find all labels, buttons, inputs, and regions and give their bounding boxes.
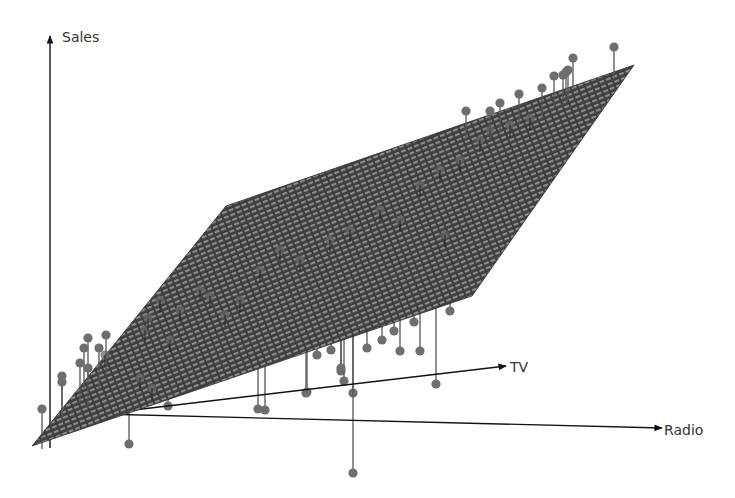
data-point-below-plane bbox=[260, 405, 269, 414]
data-point-below-plane bbox=[409, 317, 418, 326]
regression-plane-plot bbox=[0, 0, 735, 498]
data-point-above-plane bbox=[94, 343, 103, 352]
data-point-above-plane bbox=[83, 363, 92, 372]
data-point-above-plane bbox=[37, 404, 46, 413]
chart-canvas: Sales TV Radio bbox=[0, 0, 735, 498]
data-point-below-plane bbox=[336, 363, 345, 372]
data-point-above-plane bbox=[101, 330, 110, 339]
data-point-below-plane bbox=[124, 439, 133, 448]
data-point-above-plane bbox=[57, 377, 66, 386]
data-point-above-plane bbox=[514, 89, 523, 98]
data-point-above-plane bbox=[558, 70, 567, 79]
regression-plane bbox=[32, 65, 634, 446]
data-point-above-plane bbox=[75, 358, 84, 367]
data-point-below-plane bbox=[445, 306, 454, 315]
data-point-below-plane bbox=[431, 379, 440, 388]
data-point-below-plane bbox=[377, 335, 386, 344]
data-point-above-plane bbox=[568, 53, 577, 62]
data-point-below-plane bbox=[389, 326, 398, 335]
data-point-below-plane bbox=[312, 350, 321, 359]
sales-axis-label: Sales bbox=[62, 29, 99, 45]
data-point-above-plane bbox=[485, 106, 494, 115]
data-point-above-plane bbox=[537, 83, 546, 92]
data-point-above-plane bbox=[495, 98, 504, 107]
data-point-above-plane bbox=[83, 333, 92, 342]
data-point-below-plane bbox=[326, 345, 335, 354]
data-point-above-plane bbox=[461, 106, 470, 115]
data-point-below-plane bbox=[395, 346, 404, 355]
data-point-above-plane bbox=[609, 42, 618, 51]
data-point-above-plane bbox=[549, 71, 558, 80]
data-point-below-plane bbox=[362, 343, 371, 352]
tv-axis-label: TV bbox=[510, 359, 528, 375]
radio-axis bbox=[100, 414, 662, 428]
data-point-below-plane bbox=[415, 346, 424, 355]
radio-axis-label: Radio bbox=[664, 422, 703, 438]
data-point-above-plane bbox=[79, 343, 88, 352]
data-point-below-plane bbox=[348, 468, 357, 477]
